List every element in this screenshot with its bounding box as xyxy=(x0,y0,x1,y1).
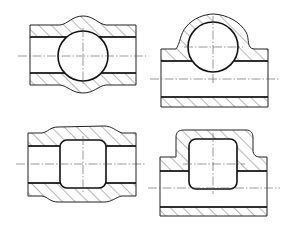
figure-1-symmetric-bulge-circular-cavity xyxy=(18,16,146,93)
figure-4-one-sided-boss-square-cavity xyxy=(148,130,280,216)
figure-2-one-sided-dome-circular-cavity xyxy=(150,14,280,107)
lower-wall-section xyxy=(161,97,268,107)
lower-wall-section xyxy=(160,207,267,216)
figure-3-symmetric-bulge-square-cavity xyxy=(16,126,146,202)
technical-drawing-sheet xyxy=(0,0,288,232)
